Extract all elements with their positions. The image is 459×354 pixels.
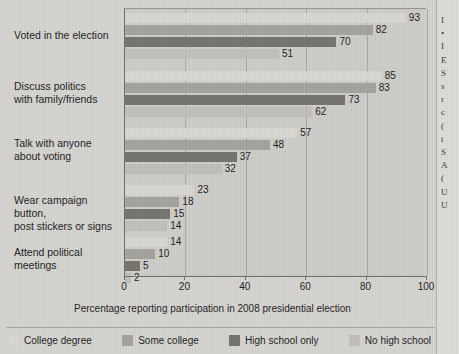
bar-value-label: 18 [182, 197, 193, 207]
bar-fill [125, 221, 167, 231]
category-label: Wear campaign button,post stickers or si… [14, 194, 122, 233]
category-label: Talk with anyoneabout voting [14, 137, 122, 163]
legend-item[interactable]: No high school [349, 335, 431, 346]
bar-fill [125, 261, 140, 271]
chart-page: I•IESsrc(tSA(UU 938270518583736257483732… [0, 0, 459, 354]
bar-group: 93827051 [125, 13, 426, 61]
bar: 14 [125, 221, 167, 231]
text-fragment: I [441, 14, 459, 27]
legend-item[interactable]: High school only [229, 335, 318, 346]
bar: 23 [125, 185, 194, 195]
bar: 32 [125, 164, 222, 174]
adjacent-text-column: I•IESsrc(tSA(UU [436, 0, 459, 354]
gridline [427, 9, 428, 276]
text-fragment: A [441, 159, 459, 172]
text-fragment: • [441, 27, 459, 40]
legend-swatch [122, 335, 133, 346]
bar-fill [125, 71, 382, 81]
bar-value-label: 83 [379, 83, 390, 93]
legend-swatch [229, 335, 240, 346]
category-label: Attend politicalmeetings [14, 246, 122, 272]
legend-swatch [8, 335, 19, 346]
category-label-line: about voting [14, 150, 122, 163]
bar: 51 [125, 49, 279, 59]
bar-value-label: 82 [376, 25, 387, 35]
bar: 62 [125, 107, 312, 117]
bar-value-label: 10 [158, 249, 169, 259]
category-label-line: Voted in the election [14, 29, 122, 42]
bar: 82 [125, 25, 373, 35]
x-axis-title: Percentage reporting participation in 20… [0, 303, 459, 314]
bar-fill [125, 237, 167, 247]
legend-label: No high school [365, 335, 431, 346]
bar-value-label: 51 [282, 49, 293, 59]
bar: 10 [125, 249, 155, 259]
x-tick [366, 276, 367, 280]
bar: 70 [125, 37, 336, 47]
legend-divider [6, 327, 435, 328]
bar-group: 85837362 [125, 71, 426, 119]
text-fragment: E [441, 54, 459, 67]
bar-fill [125, 49, 279, 59]
bar-value-label: 5 [143, 261, 149, 271]
x-tick-label: 20 [179, 281, 190, 292]
text-fragment: S [441, 67, 459, 80]
category-label-line: Attend political [14, 246, 122, 259]
bar-fill [125, 152, 237, 162]
bar-value-label: 14 [170, 237, 181, 247]
x-tick [426, 276, 427, 280]
text-fragment: s [441, 80, 459, 93]
bar-fill [125, 107, 312, 117]
bar-group: 57483732 [125, 128, 426, 176]
bar-fill [125, 209, 170, 219]
x-tick-label: 40 [239, 281, 250, 292]
category-label-line: meetings [14, 259, 122, 272]
x-tick [305, 276, 306, 280]
legend-item[interactable]: College degree [8, 335, 92, 346]
bar-value-label: 93 [409, 13, 420, 23]
x-tick [245, 276, 246, 280]
text-fragment: t [441, 133, 459, 146]
x-tick-label: 0 [121, 281, 127, 292]
bar-value-label: 37 [240, 152, 251, 162]
category-label-line: Talk with anyone [14, 137, 122, 150]
bar-value-label: 48 [273, 140, 284, 150]
bar-group: 23181514 [125, 185, 426, 233]
category-label: Discuss politicswith family/friends [14, 80, 122, 106]
text-fragment: c [441, 106, 459, 119]
legend-swatch [349, 335, 360, 346]
text-fragment: r [441, 93, 459, 106]
bar-value-label: 32 [225, 164, 236, 174]
bar-value-label: 15 [173, 209, 184, 219]
x-tick [184, 276, 185, 280]
category-label-line: post stickers or signs [14, 220, 122, 233]
category-label-line: Discuss politics [14, 80, 122, 93]
bar-value-label: 85 [385, 71, 396, 81]
chart-legend: College degreeSome collegeHigh school on… [8, 331, 431, 349]
text-fragment: U [441, 199, 459, 212]
bar-value-label: 2 [134, 273, 140, 283]
bar-fill [125, 197, 179, 207]
bar: 48 [125, 140, 270, 150]
category-label-line: with family/friends [14, 93, 122, 106]
text-fragment: S [441, 146, 459, 159]
adjacent-text-fragments: I•IESsrc(tSA(UU [437, 0, 459, 212]
bar: 18 [125, 197, 179, 207]
legend-item[interactable]: Some college [122, 335, 199, 346]
bar-fill [125, 83, 376, 93]
bar-value-label: 57 [300, 128, 311, 138]
bar-value-label: 62 [315, 107, 326, 117]
bar-fill [125, 249, 155, 259]
bar-fill [125, 128, 297, 138]
bar: 73 [125, 95, 345, 105]
bar-fill [125, 37, 336, 47]
bar-fill [125, 13, 406, 23]
bar-fill [125, 95, 345, 105]
bar-value-label: 23 [197, 185, 208, 195]
bar-fill [125, 25, 373, 35]
category-label-line: Wear campaign button, [14, 194, 122, 220]
text-fragment: I [441, 40, 459, 53]
legend-label: College degree [24, 335, 92, 346]
text-fragment: ( [441, 172, 459, 185]
bar-value-label: 70 [339, 37, 350, 47]
